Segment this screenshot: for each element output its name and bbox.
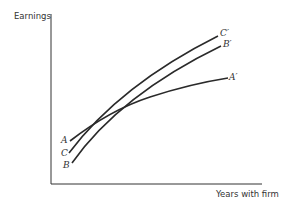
y-axis-label: Earnings [14,11,51,21]
label-a-end: A′ [229,72,238,82]
label-b-end: B′ [223,39,232,49]
earnings-diagram [0,0,288,206]
label-c-start: C [61,148,68,158]
curve-c [69,36,218,153]
label-a-start: A [61,135,68,145]
x-axis-label: Years with firm [216,189,279,199]
label-b-start: B [63,160,70,170]
label-c-end: C′ [220,28,229,38]
curve-b [72,46,221,163]
